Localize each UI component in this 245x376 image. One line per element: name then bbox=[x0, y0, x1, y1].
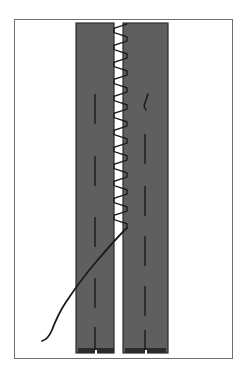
figure-canvas: Technical line drawing: two vertical gra… bbox=[0, 0, 245, 376]
right-foot-notch bbox=[145, 350, 147, 354]
figure-drawing bbox=[0, 0, 245, 376]
left-foot-notch bbox=[95, 350, 97, 354]
